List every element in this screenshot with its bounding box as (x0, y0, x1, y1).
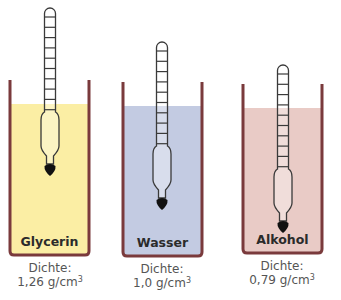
density-value: 1,26 g/cm3 (0, 275, 105, 289)
density-value: 1,0 g/cm3 (107, 276, 217, 290)
density-value: 0,79 g/cm3 (227, 273, 337, 287)
hydrometer-body (41, 8, 59, 164)
density-caption-glycerin: Dichte: 1,26 g/cm3 (0, 261, 105, 289)
density-label: Dichte: (107, 262, 217, 276)
container-label-alkohol: Alkohol (243, 232, 322, 247)
diagram-canvas (0, 0, 341, 300)
hydrometer-glycerin (41, 8, 59, 176)
density-label: Dichte: (227, 259, 337, 273)
container-label-wasser: Wasser (123, 235, 202, 250)
container-label-glycerin: Glycerin (10, 234, 89, 249)
density-caption-wasser: Dichte: 1,0 g/cm3 (107, 262, 217, 290)
hydrometer-diagram: Glycerin Wasser Alkohol Dichte: 1,26 g/c… (0, 0, 341, 300)
density-caption-alkohol: Dichte: 0,79 g/cm3 (227, 259, 337, 287)
density-label: Dichte: (0, 261, 105, 275)
